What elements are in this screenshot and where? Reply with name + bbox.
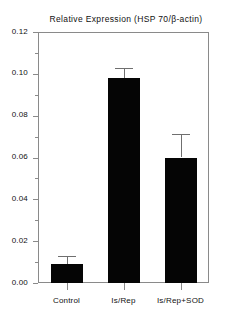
y-axis: 0.000.020.040.060.080.100.12	[0, 32, 38, 283]
y-axis-tick-label: 0.08	[12, 110, 28, 119]
y-axis-tick-label: 0.06	[12, 152, 28, 161]
bar	[108, 78, 140, 283]
error-bar-cap	[172, 134, 190, 135]
y-axis-tick-label: 0.04	[12, 194, 28, 203]
x-axis-ticks	[38, 283, 209, 293]
x-axis-label-2: Is/Rep	[111, 296, 135, 305]
bar	[51, 264, 83, 283]
x-axis-labels: ControlIs/RepIs/Rep+SOD	[0, 296, 226, 310]
x-axis-tick-mark	[124, 283, 125, 290]
y-axis-tick-label: 0.00	[12, 278, 28, 287]
bar	[165, 158, 197, 284]
error-bar-cap	[115, 68, 133, 69]
error-bar-line	[181, 134, 182, 157]
y-axis-tick-label: 0.12	[12, 27, 28, 36]
x-axis-tick-mark	[67, 283, 68, 290]
chart-title: Relative Expression (HSP 70/β-actin)	[36, 14, 216, 24]
y-axis-tick-label: 0.02	[12, 236, 28, 245]
bar-series	[38, 32, 209, 283]
error-bar-line	[67, 256, 68, 264]
x-axis-tick-mark	[181, 283, 182, 290]
bar-chart-figure: Relative Expression (HSP 70/β-actin) 0.0…	[0, 0, 226, 326]
y-axis-tick-label: 0.10	[12, 68, 28, 77]
x-axis-label-3: Is/Rep+SOD	[157, 296, 204, 305]
x-axis-label-1: Control	[53, 296, 80, 305]
error-bar-line	[124, 68, 125, 78]
error-bar-cap	[58, 256, 76, 257]
